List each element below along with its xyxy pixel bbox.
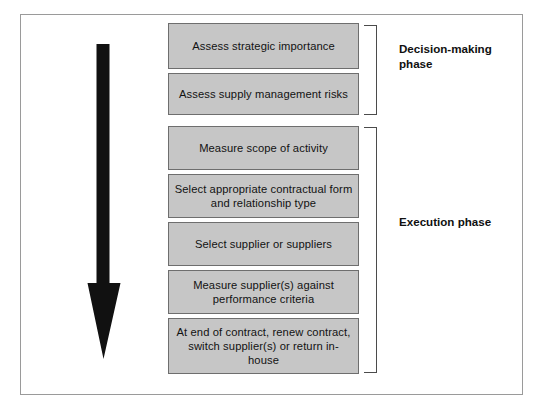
process-step-box[interactable]: Measure supplier(s) against performance … xyxy=(168,270,359,314)
process-step-box[interactable]: Assess supply management risks xyxy=(168,73,359,115)
down-arrow-shape xyxy=(85,44,123,359)
process-step-box[interactable]: Select appropriate contractual form and … xyxy=(168,174,359,218)
process-step-label: At end of contract, renew contract, swit… xyxy=(169,325,358,368)
phase-bracket-execution xyxy=(364,127,377,373)
process-step-box[interactable]: At end of contract, renew contract, swit… xyxy=(168,318,359,374)
process-step-label: Assess strategic importance xyxy=(188,39,339,53)
diagram-frame: Assess strategic importance Assess suppl… xyxy=(20,14,523,395)
diagram-canvas: Assess strategic importance Assess suppl… xyxy=(0,0,538,413)
down-arrow-icon xyxy=(85,44,123,359)
phase-label-execution: Execution phase xyxy=(399,215,519,230)
process-step-box[interactable]: Select supplier or suppliers xyxy=(168,222,359,266)
process-step-box[interactable]: Measure scope of activity xyxy=(168,126,359,170)
process-step-label: Assess supply management risks xyxy=(175,87,352,101)
phase-bracket-decision-making xyxy=(364,25,377,115)
process-step-label: Select appropriate contractual form and … xyxy=(169,182,358,210)
phase-label-decision-making: Decision-making phase xyxy=(399,42,519,71)
process-step-label: Measure scope of activity xyxy=(195,141,332,155)
process-step-label: Select supplier or suppliers xyxy=(191,237,336,251)
process-step-label: Measure supplier(s) against performance … xyxy=(169,278,358,306)
process-step-box[interactable]: Assess strategic importance xyxy=(168,23,359,69)
